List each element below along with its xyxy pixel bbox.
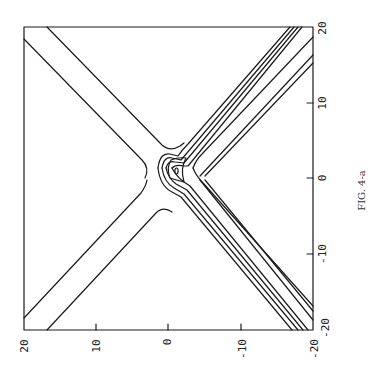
contour-right-outer-top bbox=[193, 37, 313, 168]
right-axis-ticks bbox=[307, 103, 313, 254]
right-tick-label-neg20: -20 bbox=[320, 318, 332, 338]
contour-plot bbox=[0, 0, 372, 383]
contour-right-1-low bbox=[158, 168, 292, 330]
contour-upper-left-b bbox=[24, 39, 147, 178]
right-tick-label-neg10: -10 bbox=[317, 244, 329, 264]
contour-upper-left-a bbox=[47, 27, 184, 149]
bottom-tick-label-20: 20 bbox=[19, 339, 31, 352]
right-tick-label-0: 0 bbox=[317, 175, 329, 182]
right-tick-label-10: 10 bbox=[317, 96, 329, 109]
contour-lower-left-a bbox=[24, 180, 147, 318]
contour-right-2-low bbox=[162, 168, 298, 330]
bottom-axis-ticks bbox=[96, 324, 241, 330]
figure-caption: FIG. 4-a bbox=[356, 170, 367, 211]
right-tick-label-20: 20 bbox=[317, 21, 329, 34]
bottom-tick-label-neg10: -10 bbox=[237, 339, 249, 359]
plot-frame bbox=[24, 27, 313, 330]
contour-right-4-low bbox=[172, 168, 308, 330]
bottom-tick-label-neg20: -20 bbox=[309, 339, 321, 359]
bottom-tick-label-0: 0 bbox=[162, 339, 174, 346]
contour-right-outer-bottom bbox=[193, 168, 313, 306]
contour-right-outer2-bottom bbox=[200, 180, 313, 320]
bottom-tick-label-10: 10 bbox=[91, 339, 103, 352]
contour-right-outer2-top bbox=[200, 55, 313, 176]
peak-contour bbox=[175, 168, 178, 174]
contour-right-3-low bbox=[166, 168, 303, 330]
